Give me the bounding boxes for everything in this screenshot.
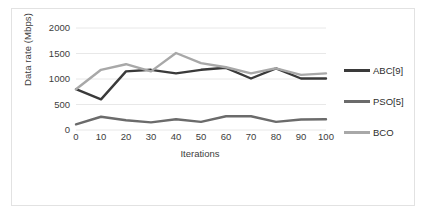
x-tick-label: 90 xyxy=(288,132,314,142)
y-tick-label: 1500 xyxy=(36,49,70,59)
y-tick-label: 500 xyxy=(36,100,70,110)
x-tick-label: 80 xyxy=(263,132,289,142)
x-tick-label: 70 xyxy=(238,132,264,142)
chart-figure: Data rate (Mbps) 2000150010005000 010203… xyxy=(0,0,426,215)
x-axis-title: Iterations xyxy=(75,148,325,159)
x-tick-label: 30 xyxy=(138,132,164,142)
y-axis-tick-labels: 2000150010005000 xyxy=(26,0,70,145)
x-tick-label: 50 xyxy=(188,132,214,142)
y-tick-label: 1000 xyxy=(36,74,70,84)
x-tick-label: 60 xyxy=(213,132,239,142)
legend-item[interactable]: BCO xyxy=(344,117,424,148)
legend-label: ABC[9] xyxy=(373,65,403,76)
gridlines xyxy=(76,28,326,130)
x-tick-label: 10 xyxy=(88,132,114,142)
legend-item[interactable]: ABC[9] xyxy=(344,55,424,86)
chart-legend: ABC[9]PSO[5]BCO xyxy=(344,55,424,148)
legend-swatch-icon xyxy=(344,131,370,134)
x-tick-label: 0 xyxy=(63,132,89,142)
data-series-group xyxy=(76,53,326,124)
legend-label: BCO xyxy=(373,127,394,138)
series-line-pso-5 xyxy=(76,116,326,124)
legend-swatch-icon xyxy=(344,100,370,103)
legend-item[interactable]: PSO[5] xyxy=(344,86,424,117)
legend-swatch-icon xyxy=(344,69,370,72)
legend-label: PSO[5] xyxy=(373,96,404,107)
chart-plot-container: Data rate (Mbps) 2000150010005000 010203… xyxy=(0,0,426,215)
y-tick-label: 2000 xyxy=(36,23,70,33)
x-tick-label: 100 xyxy=(313,132,339,142)
x-tick-label: 40 xyxy=(163,132,189,142)
x-tick-label: 20 xyxy=(113,132,139,142)
